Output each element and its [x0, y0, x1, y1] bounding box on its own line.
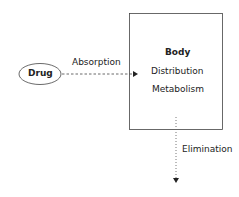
elimination-label: Elimination — [182, 145, 232, 154]
body-node-metabolism: Metabolism — [152, 85, 204, 94]
absorption-label: Absorption — [72, 58, 121, 67]
diagram-canvas — [0, 0, 239, 197]
drug-node-label: Drug — [28, 69, 53, 78]
body-node-distribution: Distribution — [151, 67, 204, 76]
body-node-title: Body — [165, 48, 190, 57]
elimination-arrowhead-icon — [173, 178, 179, 183]
absorption-arrowhead-icon — [133, 71, 138, 77]
